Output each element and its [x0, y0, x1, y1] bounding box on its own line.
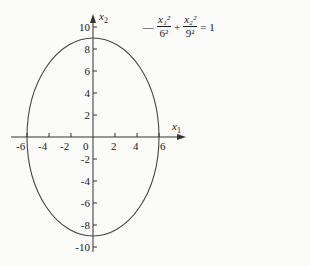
x-tick-label: 2: [111, 140, 117, 152]
equation-plus: +: [174, 21, 180, 33]
equation-term2: x₂² 9²: [182, 14, 198, 39]
x-tick-label: -2: [60, 140, 69, 152]
y-tick-label: -2: [81, 153, 90, 165]
y-tick-label: -10: [75, 241, 90, 253]
x-tick-label: -4: [38, 140, 48, 152]
y-tick-label: -4: [81, 175, 91, 187]
y-tick-label: 6: [85, 65, 91, 77]
x-axis-label: x1: [171, 120, 181, 135]
y-tick-label: 10: [79, 21, 91, 33]
y-tick-label: 4: [85, 87, 91, 99]
y-tick-label: 8: [85, 43, 91, 55]
y-tick-label: 2: [85, 109, 91, 121]
equation-rhs: = 1: [200, 21, 214, 33]
y-tick-label: -6: [81, 197, 91, 209]
origin-label: 0: [83, 140, 89, 152]
x-tick-label: 4: [133, 140, 139, 152]
equation-term1: x₁² 6²: [156, 14, 172, 39]
equation-leader: —: [143, 21, 154, 33]
y-tick-label: -8: [81, 219, 91, 231]
x-tick-label: 6: [160, 140, 166, 152]
y-axis-label: x2: [98, 10, 108, 25]
x-tick-label: -6: [16, 140, 26, 152]
y-axis-arrow-icon: [90, 14, 96, 23]
ellipse-plot: -6 -4 -2 0 2 4 6 10 8 6 4 2 -2 -4 -6 -8 …: [0, 0, 310, 266]
ellipse-equation: — x₁² 6² + x₂² 9² = 1: [142, 14, 216, 39]
